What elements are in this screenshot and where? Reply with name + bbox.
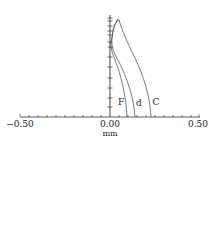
curve-label-d: d: [136, 98, 142, 108]
curve-label-C: C: [153, 97, 160, 107]
x-tick-label-min: −0.50: [6, 119, 34, 129]
x-tick-label-max: 0.50: [188, 119, 208, 129]
curve-label-F: F: [118, 97, 124, 107]
x-axis-title: mm: [102, 129, 117, 138]
x-tick-label-zero: 0.00: [100, 119, 120, 129]
x-axis-minor-ticks: [20, 114, 199, 117]
